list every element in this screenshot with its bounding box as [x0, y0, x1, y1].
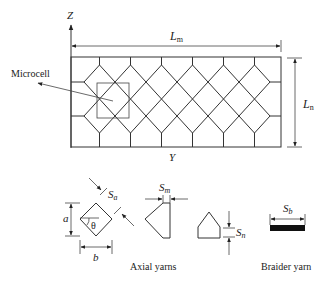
- theta-label: θ: [91, 220, 96, 231]
- braider-yarn-segment: [162, 99, 178, 116]
- braider-yarn-segment: [162, 82, 178, 99]
- braider-yarn-segment: [115, 99, 131, 116]
- braider-yarn-segment: [239, 116, 255, 133]
- braider-yarn-segment: [131, 82, 147, 99]
- braider-yarn-segment: [193, 82, 209, 99]
- braider-yarn-segment: [224, 65, 240, 82]
- braider-yarn-segment: [224, 99, 240, 116]
- braider-yarn-segment: [115, 82, 131, 99]
- braider-yarn-segment: [146, 116, 162, 133]
- braider-yarn-segment: [131, 65, 147, 82]
- braider-yarn-segment: [84, 116, 100, 133]
- sn-label: Sn: [236, 226, 246, 240]
- braider-yarn-segment: [255, 65, 271, 82]
- microcell-box: [97, 83, 129, 118]
- b-label: b: [93, 251, 99, 263]
- braider-yarn-segment: [208, 116, 224, 133]
- braider-yarn-segment: [131, 116, 147, 133]
- braider-yarn-segment: [115, 65, 131, 82]
- ln-label: Ln: [302, 97, 314, 112]
- braider-yarn-segment: [131, 99, 147, 116]
- braider-yarn-segment: [146, 65, 162, 82]
- axial-yarn-side-shape: [145, 203, 170, 238]
- braider-yarn-segment: [146, 99, 162, 116]
- braider-yarn-segment: [255, 82, 271, 99]
- braider-yarn-segment: [224, 116, 240, 133]
- sb-label: Sb: [283, 202, 293, 216]
- braider-yarn-segment: [193, 65, 209, 82]
- axial-yarns-caption: Axial yarns: [130, 261, 176, 272]
- braider-yarn-segment: [115, 116, 131, 133]
- braider-yarn-segment: [177, 116, 193, 133]
- sa-tick-lower: [114, 207, 121, 214]
- braider-yarn-segment: [208, 82, 224, 99]
- braider-yarn-segment: [84, 65, 100, 82]
- braider-yarn-segment: [146, 82, 162, 99]
- braider-yarn-segment: [193, 99, 209, 116]
- axial-yarn-interior-shape: [80, 203, 112, 236]
- braider-yarn-segment: [239, 65, 255, 82]
- braider-yarn-segment: [255, 116, 271, 133]
- microcell-pointer-arrow: [38, 83, 113, 101]
- braider-yarn-segment: [100, 65, 116, 82]
- braider-yarn-segment: [177, 82, 193, 99]
- diagram-canvas: Z Lm Ln Microcell Y θ a b Sa Sm Sn Axial…: [0, 0, 325, 281]
- braider-yarn-segment: [239, 82, 255, 99]
- axial-yarn-edge-shape: [198, 212, 220, 238]
- lm-label: Lm: [169, 29, 184, 44]
- braider-yarn-segment: [239, 99, 255, 116]
- braider-yarn-segment: [162, 116, 178, 133]
- braider-yarn-bar: [270, 225, 305, 231]
- sm-label: Sm: [159, 181, 171, 195]
- braider-yarn-segment: [208, 99, 224, 116]
- braider-yarn-segment: [100, 116, 116, 133]
- braider-yarn-segment: [193, 116, 209, 133]
- z-axis-label: Z: [67, 9, 74, 21]
- braider-yarn-segment: [224, 82, 240, 99]
- theta-arc: [87, 218, 89, 225]
- braider-yarn-segment: [177, 65, 193, 82]
- braider-yarn-segment: [177, 99, 193, 116]
- sa-tick-upper: [100, 188, 107, 195]
- braider-yarn-segment: [255, 99, 271, 116]
- microcell-label: Microcell: [11, 68, 50, 79]
- sa-arrow-lower: [122, 214, 134, 226]
- braider-yarn-segment: [208, 65, 224, 82]
- braider-yarn-segment: [100, 99, 116, 116]
- sa-arrow-upper: [89, 178, 101, 190]
- sa-label: Sa: [108, 188, 118, 202]
- a-label: a: [63, 212, 69, 224]
- diagram-svg: Z Lm Ln Microcell Y θ a b Sa Sm Sn Axial…: [0, 0, 325, 281]
- braider-yarn-segment: [100, 82, 116, 99]
- braid-lattice: [71, 57, 281, 147]
- y-axis-label: Y: [169, 151, 177, 163]
- braider-yarn-segment: [162, 65, 178, 82]
- braider-yarn-caption: Braider yarn: [261, 261, 311, 272]
